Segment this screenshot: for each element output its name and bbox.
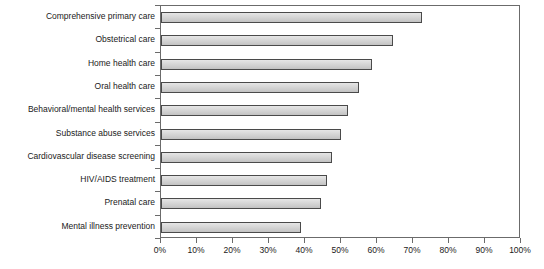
bar: [161, 12, 422, 23]
x-axis-tick-label: 90%: [464, 245, 504, 255]
plot-area: [160, 5, 520, 238]
bar: [161, 152, 332, 163]
x-axis-tick-labels: 0%10%20%30%40%50%60%70%80%90%100%: [0, 245, 544, 259]
y-axis-label: HIV/AIDS treatment: [0, 168, 155, 191]
x-axis-tick: [484, 238, 485, 243]
bar-row: [161, 29, 519, 52]
bar-row: [161, 216, 519, 239]
x-axis-tick-label: 80%: [428, 245, 468, 255]
bar: [161, 129, 341, 140]
bar: [161, 222, 301, 233]
bar: [161, 35, 393, 46]
x-axis-tick: [340, 238, 341, 243]
x-axis-tick: [232, 238, 233, 243]
x-axis-tick: [520, 238, 521, 243]
bar-row: [161, 169, 519, 192]
bar: [161, 59, 372, 70]
y-axis-labels: Comprehensive primary careObstetrical ca…: [0, 5, 155, 238]
x-axis-tick-label: 60%: [356, 245, 396, 255]
y-axis-label: Substance abuse services: [0, 122, 155, 145]
bar: [161, 105, 348, 116]
bar: [161, 175, 327, 186]
x-axis-ticks: [160, 238, 521, 244]
x-axis-tick: [412, 238, 413, 243]
y-axis-label: Behavioral/mental health services: [0, 98, 155, 121]
x-axis-tick-label: 50%: [320, 245, 360, 255]
bar-row: [161, 192, 519, 215]
y-axis-label: Oral health care: [0, 75, 155, 98]
x-axis-tick: [268, 238, 269, 243]
y-axis-label: Prenatal care: [0, 191, 155, 214]
x-axis-tick-label: 20%: [212, 245, 252, 255]
x-axis-tick-label: 100%: [500, 245, 540, 255]
y-axis-label: Comprehensive primary care: [0, 5, 155, 28]
bar-row: [161, 146, 519, 169]
x-axis-tick: [376, 238, 377, 243]
x-axis-tick-label: 30%: [248, 245, 288, 255]
bar-row: [161, 99, 519, 122]
y-axis-label: Home health care: [0, 52, 155, 75]
bar-row: [161, 123, 519, 146]
x-axis-tick-label: 0%: [140, 245, 180, 255]
x-axis-tick-label: 40%: [284, 245, 324, 255]
y-axis-label: Cardiovascular disease screening: [0, 145, 155, 168]
x-axis-tick: [196, 238, 197, 243]
bar-row: [161, 6, 519, 29]
horizontal-bar-chart: Comprehensive primary careObstetrical ca…: [0, 0, 544, 269]
y-axis-label: Mental illness prevention: [0, 215, 155, 238]
x-axis-tick: [304, 238, 305, 243]
x-axis-tick: [448, 238, 449, 243]
bar: [161, 82, 359, 93]
y-axis-label: Obstetrical care: [0, 28, 155, 51]
bar-row: [161, 76, 519, 99]
bar-row: [161, 53, 519, 76]
x-axis-tick-label: 70%: [392, 245, 432, 255]
x-axis-tick-label: 10%: [176, 245, 216, 255]
bar: [161, 198, 321, 209]
x-axis-tick: [160, 238, 161, 243]
